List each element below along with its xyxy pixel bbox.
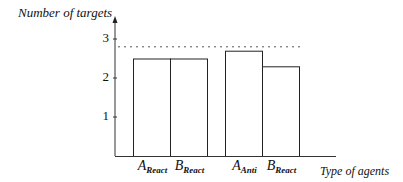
y-axis-title: Number of targets: [18, 5, 112, 21]
bar: [263, 67, 300, 157]
bar: [134, 59, 171, 157]
bars: [134, 51, 300, 156]
bar: [226, 51, 263, 156]
category-label: AReact: [138, 158, 168, 175]
bar: [171, 59, 208, 157]
category-label: BReact: [267, 158, 297, 175]
y-axis-arrow-icon: [113, 16, 118, 23]
category-label: BReact: [175, 158, 205, 175]
x-axis-title: Type of agents: [320, 164, 389, 179]
y-tick-label: 3: [95, 30, 109, 46]
category-label: AAnti: [232, 158, 257, 175]
y-tick-label: 2: [95, 69, 109, 85]
y-tick-label: 1: [95, 108, 109, 124]
bar-chart: [0, 0, 403, 182]
